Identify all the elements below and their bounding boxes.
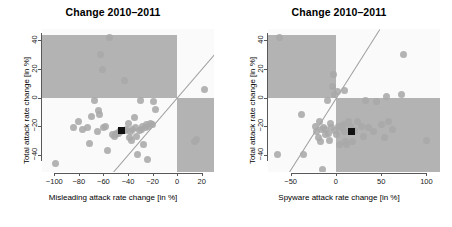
y-tick-label: 20 bbox=[30, 63, 39, 75]
y-tick-label: −20 bbox=[30, 120, 39, 132]
x-tick-label: −50 bbox=[271, 177, 311, 186]
data-point bbox=[383, 93, 390, 100]
data-point bbox=[152, 106, 159, 113]
data-point bbox=[88, 113, 95, 120]
data-point bbox=[317, 138, 324, 145]
shaded-quadrant-upper-left bbox=[42, 35, 177, 98]
data-point bbox=[96, 111, 103, 118]
panel-title-right: Change 2010–2011 bbox=[226, 6, 452, 19]
x-tick-label: 100 bbox=[406, 177, 446, 186]
data-point bbox=[319, 166, 326, 172]
data-point bbox=[360, 133, 367, 140]
x-tick-mark bbox=[153, 173, 154, 176]
data-point bbox=[144, 156, 151, 163]
data-point bbox=[423, 137, 430, 144]
x-tick-mark bbox=[128, 173, 129, 176]
x-tick-label: 0 bbox=[316, 177, 356, 186]
y-axis-line-left bbox=[41, 33, 42, 161]
data-point bbox=[300, 151, 307, 158]
data-point bbox=[358, 123, 365, 130]
y-axis-line-right bbox=[267, 33, 268, 161]
y-tick-label: −20 bbox=[256, 120, 265, 132]
data-point bbox=[389, 126, 396, 133]
x-tick-mark bbox=[426, 173, 427, 176]
data-point bbox=[330, 71, 337, 78]
x-axis-title-right: Spyware attack rate change [in %] bbox=[226, 193, 452, 202]
median-marker bbox=[118, 127, 125, 134]
data-point bbox=[102, 123, 109, 130]
data-point bbox=[193, 136, 200, 143]
data-point bbox=[52, 160, 59, 167]
data-point bbox=[86, 140, 93, 147]
y-axis-title-right: Total attack rate change [in %] bbox=[248, 30, 257, 190]
shaded-quadrant-lower-right bbox=[177, 98, 214, 172]
data-point bbox=[75, 118, 82, 125]
y-tick-label: 20 bbox=[256, 63, 265, 75]
x-tick-mark bbox=[103, 173, 104, 176]
y-tick-label: −40 bbox=[30, 148, 39, 160]
plot-area-right bbox=[268, 29, 440, 172]
x-tick-mark bbox=[202, 173, 203, 176]
panel-title-left: Change 2010–2011 bbox=[0, 6, 226, 19]
panel-misleading: Change 2010–2011 −100−80−60−40−200204020… bbox=[0, 0, 226, 227]
y-tick-label: 40 bbox=[256, 34, 265, 46]
data-point bbox=[326, 137, 333, 144]
data-point bbox=[104, 147, 111, 154]
median-marker bbox=[348, 128, 355, 135]
data-point bbox=[400, 51, 407, 58]
data-point bbox=[121, 77, 128, 84]
plot-area-left bbox=[42, 29, 214, 172]
data-point bbox=[137, 97, 144, 104]
data-point bbox=[274, 151, 281, 158]
data-point bbox=[341, 87, 348, 94]
x-axis-title-left: Misleading attack rate change [in %] bbox=[0, 193, 226, 202]
y-tick-label: 40 bbox=[30, 34, 39, 46]
data-point bbox=[131, 114, 138, 121]
x-tick-mark bbox=[381, 173, 382, 176]
data-point bbox=[324, 97, 331, 104]
data-point bbox=[99, 66, 106, 73]
panel-spyware: Change 2010–2011 −5005010040200−20−40 Sp… bbox=[226, 0, 452, 227]
x-tick-label: 20 bbox=[182, 177, 222, 186]
data-point bbox=[298, 111, 305, 118]
data-point bbox=[150, 98, 157, 105]
y-axis-title-left: Total attack rate change [in %] bbox=[22, 30, 31, 190]
data-point bbox=[140, 141, 147, 148]
figure-two-panel-scatter: Change 2010–2011 −100−80−60−40−200204020… bbox=[0, 0, 452, 227]
y-tick-label: 0 bbox=[256, 91, 265, 103]
x-tick-mark bbox=[177, 173, 178, 176]
y-tick-label: −40 bbox=[256, 148, 265, 160]
x-tick-mark bbox=[54, 173, 55, 176]
data-point bbox=[84, 124, 91, 131]
x-tick-label: 50 bbox=[361, 177, 401, 186]
x-axis-line-right bbox=[291, 173, 427, 174]
data-point bbox=[70, 124, 77, 131]
x-tick-mark bbox=[291, 173, 292, 176]
data-point bbox=[91, 97, 98, 104]
data-point bbox=[378, 121, 385, 128]
shaded-quadrant-upper-left bbox=[268, 35, 336, 98]
data-point bbox=[201, 86, 208, 93]
x-tick-mark bbox=[79, 173, 80, 176]
data-point bbox=[149, 121, 156, 128]
data-point bbox=[134, 151, 141, 158]
y-tick-label: 0 bbox=[30, 91, 39, 103]
x-tick-mark bbox=[336, 173, 337, 176]
